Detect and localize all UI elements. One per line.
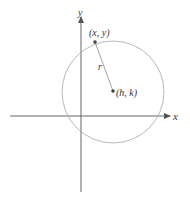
y-axis-label: y <box>77 7 83 18</box>
x-axis-label: x <box>172 110 178 122</box>
point-on-circle <box>93 40 97 44</box>
circle-diagram: x y (x, y) r (h, k) <box>0 0 190 205</box>
point-label: (x, y) <box>89 27 110 39</box>
center-label: (h, k) <box>116 87 138 99</box>
center-point <box>111 89 115 93</box>
radius-label: r <box>98 61 102 72</box>
